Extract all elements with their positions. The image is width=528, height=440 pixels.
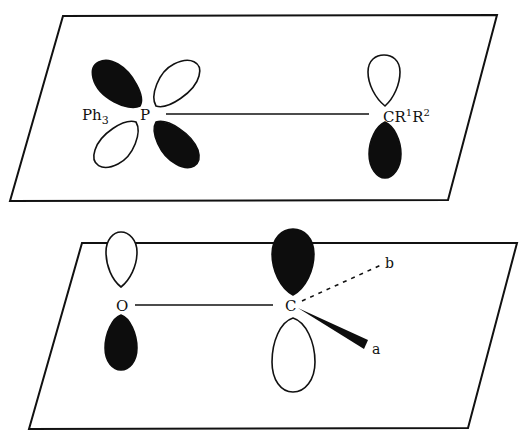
substituent-a-label: a xyxy=(372,341,380,357)
carbon-label: C xyxy=(285,297,296,315)
phosphorus-label: P xyxy=(140,106,150,124)
oxygen-label: O xyxy=(116,297,128,315)
bottom-panel-carbonyl: O C b a xyxy=(29,229,517,429)
orbital-diagram: Ph3 P CR1R2 O C b a xyxy=(0,0,528,440)
bottom-plane xyxy=(29,243,517,429)
top-panel-ylide: Ph3 P CR1R2 xyxy=(10,15,497,201)
substituent-b-label: b xyxy=(385,255,394,271)
